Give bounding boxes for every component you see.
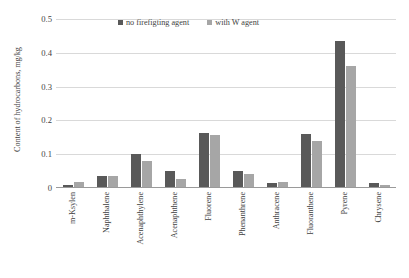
legend-item[interactable]: with W agent bbox=[207, 18, 259, 27]
bar-group bbox=[328, 19, 362, 188]
x-axis-tick-label: Fluorene bbox=[209, 163, 217, 192]
x-axis-tick-label-text: m-Ksylen bbox=[69, 192, 77, 224]
bar[interactable] bbox=[233, 171, 243, 188]
x-axis-tick-label-text: Fluoranthene bbox=[307, 192, 315, 235]
legend-swatch-icon bbox=[207, 20, 212, 25]
x-axis-tick-label: Pyrene bbox=[345, 170, 353, 192]
x-axis-tick-cell: m-Ksylen bbox=[56, 190, 90, 278]
x-axis-tick-label-text: Acenaphthene bbox=[171, 192, 179, 238]
x-axis-tick-label: Anthracene bbox=[277, 155, 285, 192]
x-axis-tick-cell: Phenanthrene bbox=[226, 190, 260, 278]
bar[interactable] bbox=[199, 133, 209, 188]
x-axis-tick-label: Naphthalene bbox=[107, 151, 115, 192]
x-axis-tick-cell: Acenaphthene bbox=[158, 190, 192, 278]
legend-swatch-icon bbox=[118, 20, 123, 25]
x-axis-tick-labels: m-KsylenNaphthaleneAcenaphthyleneAcenaph… bbox=[56, 190, 396, 278]
y-axis-tick-label: 0.3 bbox=[26, 82, 52, 91]
x-axis-tick-label-text: Fluorene bbox=[205, 192, 213, 221]
bar[interactable] bbox=[335, 41, 345, 188]
x-axis-tick-cell: Chrysene bbox=[362, 190, 396, 278]
x-axis-tick-label-text: Acenaphthylene bbox=[137, 192, 145, 245]
bar[interactable] bbox=[131, 154, 141, 188]
bar[interactable] bbox=[165, 171, 175, 188]
legend-label: no firefigting agent bbox=[126, 18, 189, 27]
chart-legend: no firefigting agentwith W agent bbox=[118, 18, 259, 27]
x-axis-tick-label: Acenaphthene bbox=[175, 146, 183, 192]
x-axis-tick-cell: Fluorene bbox=[192, 190, 226, 278]
y-axis-tick-label: 0.2 bbox=[26, 116, 52, 125]
x-axis-tick-cell: Anthracene bbox=[260, 190, 294, 278]
x-axis-tick-label: Chrysene bbox=[379, 161, 387, 192]
x-axis-tick-label: m-Ksylen bbox=[73, 160, 81, 192]
bar-chart: Content of hydrocarbons, mg/kg 00.10.20.… bbox=[0, 0, 409, 278]
x-axis-tick-label-text: Pyrene bbox=[341, 192, 349, 214]
x-axis-tick-cell: Naphthalene bbox=[90, 190, 124, 278]
x-axis-tick-label: Phenanthrene bbox=[243, 148, 251, 192]
x-axis-tick-cell: Acenaphthylene bbox=[124, 190, 158, 278]
bar[interactable] bbox=[301, 134, 311, 188]
x-axis-tick-cell: Fluoranthene bbox=[294, 190, 328, 278]
y-axis-tick-label: 0.4 bbox=[26, 49, 52, 58]
x-axis-tick-label-text: Phenanthrene bbox=[239, 192, 247, 236]
x-axis-tick-label-text: Chrysene bbox=[375, 192, 383, 223]
x-axis-tick-label-text: Naphthalene bbox=[103, 192, 111, 233]
x-axis-tick-label: Fluoranthene bbox=[311, 149, 319, 192]
y-axis-tick-label: 0.1 bbox=[26, 150, 52, 159]
legend-label: with W agent bbox=[215, 18, 259, 27]
legend-item[interactable]: no firefigting agent bbox=[118, 18, 189, 27]
x-axis-tick-label-text: Anthracene bbox=[273, 192, 281, 229]
x-axis-tick-cell: Pyrene bbox=[328, 190, 362, 278]
y-axis-title: Content of hydrocarbons, mg/kg bbox=[13, 5, 22, 195]
x-axis-tick-label: Acenaphthylene bbox=[141, 139, 149, 192]
y-axis-tick-label: 0 bbox=[26, 184, 52, 193]
y-axis-tick-labels: 00.10.20.30.40.5 bbox=[26, 19, 52, 188]
y-axis-tick-label: 0.5 bbox=[26, 15, 52, 24]
